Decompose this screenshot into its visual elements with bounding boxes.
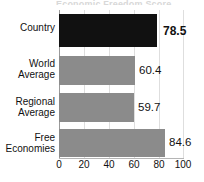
bar-value-world-average: 60.4 [139,65,161,77]
x-tick-40: 40 [103,160,114,170]
bar-free-economies [59,129,165,157]
bar-row-regional-average: 59.7 [59,93,184,122]
x-tick-80: 80 [153,160,164,170]
bar-row-world-average: 60.4 [59,56,184,85]
bar-row-free-economies: 84.6 [59,129,184,157]
x-tick-60: 60 [128,160,139,170]
bar-value-free-economies: 84.6 [169,137,191,149]
category-label-world-average: World Average [0,58,55,80]
bar-chart: Economic Freedom Score Country World Ave… [0,0,204,182]
category-label-regional-average: Regional Average [0,96,55,118]
bar-world-average [59,56,135,85]
x-tick-100: 100 [175,160,192,170]
plot-area: 78.5 60.4 59.7 84.6 0 20 40 60 80 100 [59,10,184,158]
bar-value-country: 78.5 [163,25,186,37]
chart-title-cropped: Economic Freedom Score [56,0,186,5]
category-label-country: Country [0,22,55,33]
x-tick-0: 0 [56,160,62,170]
bar-country [59,14,157,47]
x-tick-20: 20 [78,160,89,170]
bar-regional-average [59,93,134,122]
category-label-free-economies: Free Economies [0,132,55,154]
bar-row-country: 78.5 [59,14,184,47]
bar-value-regional-average: 59.7 [138,102,160,114]
